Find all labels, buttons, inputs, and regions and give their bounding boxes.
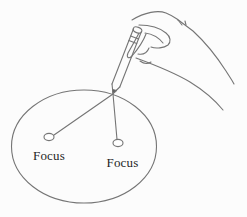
string-right (113, 94, 117, 140)
hand-icon (127, 12, 234, 110)
right-focus-point (113, 139, 123, 146)
diagram-canvas: Focus Focus (0, 0, 247, 217)
pencil-body-left-edge (112, 29, 134, 85)
knuckle-arc (138, 48, 149, 54)
hand-back-edge (132, 12, 234, 84)
pencil-ferrule-line-2 (129, 41, 137, 44)
pencil-graphite-tip (113, 90, 117, 94)
left-focus-label: Focus (33, 148, 65, 163)
string-lines (54, 94, 117, 140)
knuckle-tick-2 (185, 21, 186, 25)
string-left (54, 94, 113, 135)
ellipse-outline (12, 90, 157, 203)
ellipse-construction-diagram: Focus Focus (0, 0, 247, 217)
right-focus-label: Focus (106, 155, 138, 170)
hand-bottom-edge (136, 58, 223, 110)
index-finger-crease (145, 33, 163, 43)
left-focus-point (44, 133, 54, 140)
